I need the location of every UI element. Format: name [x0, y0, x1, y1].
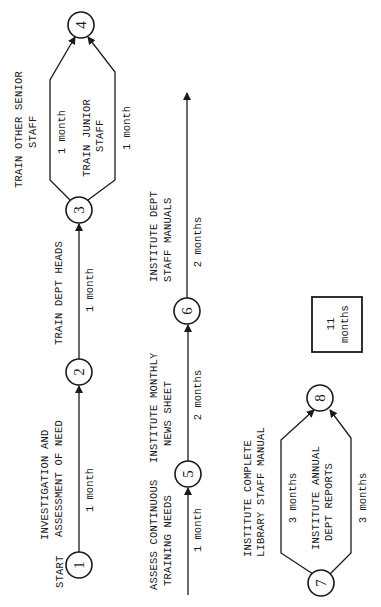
- activity-2-3-name: TRAIN DEPT HEADS: [53, 241, 65, 345]
- node-3-number: 3: [71, 206, 87, 214]
- total-duration-value: 11: [325, 318, 337, 331]
- activity-7-8-reports-name-line1: INSTITUTE ANNUAL: [310, 446, 322, 550]
- activity-7-8-reports-name-line2: DEPT REPORTS: [323, 463, 335, 541]
- start-label: START: [54, 555, 66, 588]
- node-4-number: 4: [73, 21, 89, 29]
- node-8: 8: [307, 385, 333, 411]
- activity-5-6-duration: 2 months: [192, 370, 204, 420]
- activity-network-diagram: 1 2 3 4 START INVESTIGATION AND ASSESSME…: [0, 0, 381, 607]
- activity-5-6-name-line2: NEWS SHEET: [162, 381, 174, 446]
- total-duration-unit: months: [339, 305, 351, 343]
- activity-5-6-name-line1: INSTITUTE MONTHLY: [148, 352, 160, 463]
- activity-7-8-library-name-line1: INSTITUTE COMPLETE: [242, 440, 254, 557]
- activity-2-3-duration: 1 month: [84, 268, 96, 312]
- activity-start-5-name-line1: ASSESS CONTINUOUS: [148, 479, 160, 590]
- total-duration-box: 11 months: [312, 297, 362, 352]
- node-8-number: 8: [312, 394, 328, 402]
- node-1: 1: [66, 552, 92, 578]
- activity-6-end-name-line2: STAFF MANUALS: [162, 197, 174, 282]
- activity-7-8-library-duration: 3 months: [287, 473, 299, 523]
- activity-3-4-senior-name-line1: TRAIN OTHER SENIOR: [13, 70, 25, 188]
- node-4: 4: [68, 12, 94, 38]
- node-1-number: 1: [71, 561, 87, 569]
- activity-6-end-name-line1: INSTITUTE DEPT: [148, 191, 160, 282]
- node-5-number: 5: [180, 470, 196, 478]
- activity-3-4-junior-name-line1: TRAIN JUNIOR: [81, 98, 93, 177]
- activity-7-8-library-name-line2: LIBRARY STAFF MANUAL: [255, 427, 267, 557]
- activity-3-4-junior-duration: 1 month: [121, 106, 133, 150]
- node-7: 7: [308, 570, 334, 596]
- activity-1-2-duration: 1 month: [84, 468, 96, 512]
- node-6: 6: [174, 298, 200, 324]
- activity-start-5-duration: 1 month: [192, 508, 204, 552]
- activity-7-8-reports-duration: 3 months: [357, 473, 369, 523]
- node-6-number: 6: [179, 307, 195, 315]
- activity-3-4-senior-duration: 1 month: [56, 110, 68, 154]
- node-7-number: 7: [313, 579, 329, 587]
- node-3: 3: [66, 197, 92, 223]
- node-2-number: 2: [71, 368, 87, 376]
- activity-3-4-junior-name-line2: STAFF: [94, 119, 106, 152]
- activity-6-end-duration: 2 months: [192, 217, 204, 267]
- activity-1-2-name-line2: ASSESSMENT OF NEED: [53, 420, 65, 537]
- total-duration-frame: [312, 297, 362, 352]
- node-5: 5: [175, 461, 201, 487]
- activity-1-2-name-line1: INVESTIGATION AND: [39, 429, 51, 540]
- node-2: 2: [66, 359, 92, 385]
- activity-3-4-senior-name-line2: STAFF: [27, 115, 39, 148]
- activity-start-5-name-line2: TRAINING NEEDS: [162, 495, 174, 586]
